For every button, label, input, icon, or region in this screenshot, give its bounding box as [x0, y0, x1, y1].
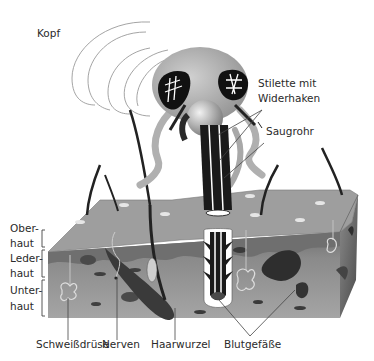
diagram-illustration: [0, 0, 374, 361]
label-subcutis-line2: haut: [10, 299, 34, 313]
label-dermis-line1: Leder-: [10, 251, 43, 265]
label-proboscis: Saugrohr: [266, 124, 314, 138]
label-head: Kopf: [37, 26, 60, 40]
label-dermis-line2: haut: [10, 266, 34, 280]
layer-brackets: [42, 230, 45, 316]
label-epidermis-line2: haut: [10, 236, 34, 250]
label-stylets-line1: Stilette mit: [258, 76, 316, 90]
label-hair-root: Haarwurzel: [151, 337, 211, 351]
mosquito: [140, 47, 262, 210]
label-subcutis-line1: Unter-: [10, 283, 42, 297]
label-sweat-gland: Schweißdrüse: [36, 337, 109, 351]
label-stylets-line2: Widerhaken: [258, 91, 320, 105]
label-epidermis-line1: Ober-: [10, 221, 39, 235]
label-blood-vessels: Blutgefäße: [224, 337, 281, 351]
label-nerves: Nerven: [102, 337, 140, 351]
mosquito-skin-diagram: Kopf Stilette mit Widerhaken Saugrohr Ob…: [0, 0, 374, 361]
